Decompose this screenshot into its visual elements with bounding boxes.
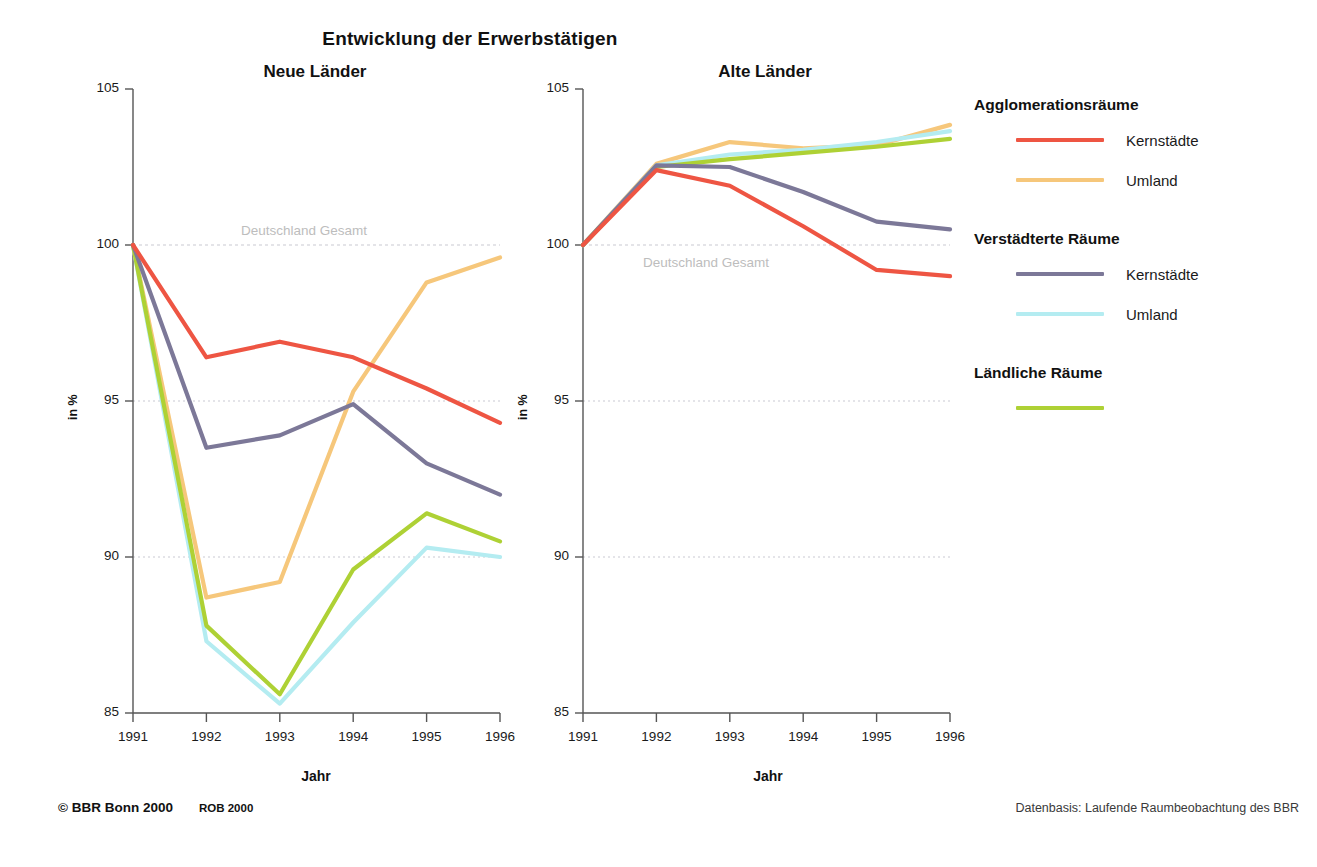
plot-neue-laender: Deutschland Gesamt — [133, 89, 540, 753]
y-axis-label-left: in % — [66, 394, 80, 420]
legend-item[interactable]: Kernstädte — [972, 120, 1312, 160]
x-axis-label-left: Jahr — [166, 768, 466, 784]
legend-item-label: Kernstädte — [1126, 266, 1199, 283]
x-tick-label: 1994 — [780, 729, 826, 744]
legend-color-swatch — [1016, 178, 1104, 182]
y-tick-label: 105 — [85, 80, 119, 95]
copyright-text: © BBR Bonn 2000 — [58, 800, 173, 815]
series-line — [583, 139, 950, 245]
legend-group-heading: Verstädterte Räume — [974, 230, 1312, 248]
page-title: Entwicklung der Erwerbstätigen — [0, 28, 940, 50]
legend: AgglomerationsräumeKernstädteUmlandVerst… — [972, 96, 1312, 458]
x-tick-label: 1992 — [183, 729, 229, 744]
y-tick-label: 100 — [535, 236, 569, 251]
chart-page: Entwicklung der Erwerbstätigen Neue Länd… — [0, 0, 1317, 867]
legend-item[interactable]: Kernstädte — [972, 254, 1312, 294]
legend-color-swatch — [1016, 406, 1104, 410]
x-tick-label: 1993 — [257, 729, 303, 744]
legend-group: Ländliche Räume — [972, 364, 1312, 428]
panel-title-alte-laender: Alte Länder — [600, 62, 930, 82]
y-tick-label: 85 — [535, 704, 569, 719]
legend-item-label: Umland — [1126, 306, 1178, 323]
y-tick-label: 105 — [535, 80, 569, 95]
legend-group: AgglomerationsräumeKernstädteUmland — [972, 96, 1312, 200]
footer-left: © BBR Bonn 2000 ROB 2000 — [58, 800, 253, 815]
legend-item[interactable]: Umland — [972, 160, 1312, 200]
legend-item[interactable] — [972, 388, 1312, 428]
x-tick-label: 1994 — [330, 729, 376, 744]
reference-line-label: Deutschland Gesamt — [643, 255, 769, 270]
x-tick-label: 1991 — [560, 729, 606, 744]
y-tick-label: 85 — [85, 704, 119, 719]
y-tick-label: 95 — [535, 392, 569, 407]
legend-item-label: Kernstädte — [1126, 132, 1199, 149]
legend-group-heading: Ländliche Räume — [974, 364, 1312, 382]
plot-alte-laender: Deutschland Gesamt — [583, 89, 990, 753]
legend-item-label: Umland — [1126, 172, 1178, 189]
y-tick-label: 100 — [85, 236, 119, 251]
x-tick-label: 1993 — [707, 729, 753, 744]
x-axis-label-right: Jahr — [618, 768, 918, 784]
x-tick-label: 1995 — [404, 729, 450, 744]
legend-color-swatch — [1016, 138, 1104, 142]
panel-title-neue-laender: Neue Länder — [150, 62, 480, 82]
x-tick-label: 1995 — [854, 729, 900, 744]
legend-color-swatch — [1016, 272, 1104, 276]
legend-group-heading: Agglomerationsräume — [974, 96, 1312, 114]
series-line — [133, 245, 500, 495]
x-tick-label: 1992 — [633, 729, 679, 744]
legend-item[interactable]: Umland — [972, 294, 1312, 334]
rob-text: ROB 2000 — [199, 802, 253, 814]
legend-group: Verstädterte RäumeKernstädteUmland — [972, 230, 1312, 334]
legend-color-swatch — [1016, 312, 1104, 316]
x-tick-label: 1996 — [927, 729, 973, 744]
reference-line-label: Deutschland Gesamt — [241, 223, 367, 238]
y-tick-label: 90 — [535, 548, 569, 563]
data-source-text: Datenbasis: Laufende Raumbeobachtung des… — [1015, 801, 1299, 815]
x-tick-label: 1991 — [110, 729, 156, 744]
y-tick-label: 95 — [85, 392, 119, 407]
x-tick-label: 1996 — [477, 729, 523, 744]
y-tick-label: 90 — [85, 548, 119, 563]
